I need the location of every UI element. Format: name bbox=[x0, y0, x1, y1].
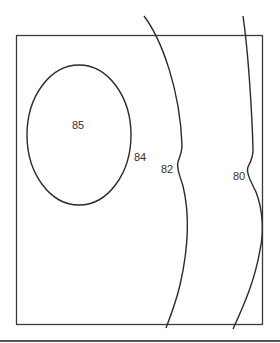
contour-label-80: 80 bbox=[233, 170, 245, 182]
contour-ellipse bbox=[27, 65, 131, 205]
contour-label-85: 85 bbox=[72, 119, 84, 131]
map-frame bbox=[17, 36, 263, 325]
contour-label-84: 84 bbox=[134, 151, 146, 163]
contour-diagram: 85 84 82 80 bbox=[0, 0, 280, 343]
contour-label-82: 82 bbox=[161, 163, 173, 175]
